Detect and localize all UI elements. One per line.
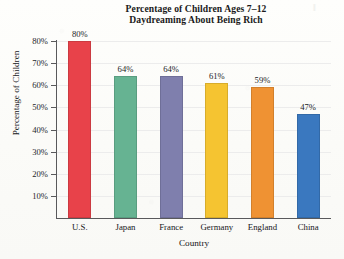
- gridline-10: [57, 196, 331, 197]
- bar-value-england: 59%: [240, 75, 286, 85]
- bar-germany: [205, 83, 228, 218]
- bar-china: [297, 114, 320, 218]
- y-tick-label-20: 20%: [8, 169, 48, 179]
- bar-chart-figure: ‖ Percentage of Children Ages 7–12 Daydr…: [0, 0, 344, 259]
- chart-title: Percentage of Children Ages 7–12 Daydrea…: [62, 3, 330, 26]
- gridline-60: [57, 85, 331, 86]
- y-tick-label-40: 40%: [8, 125, 48, 135]
- x-axis-line: [56, 218, 331, 219]
- gridline-80: [57, 41, 331, 42]
- y-tick-label-70: 70%: [8, 58, 48, 68]
- bar-england: [251, 87, 274, 218]
- gridline-30: [57, 152, 331, 153]
- bar-value-us: 80%: [57, 29, 103, 39]
- x-axis-label: Country: [57, 238, 331, 248]
- y-tick-label-30: 30%: [8, 147, 48, 157]
- y-tick-label-80: 80%: [8, 36, 48, 46]
- bar-france: [160, 76, 183, 218]
- bar-value-china: 47%: [285, 102, 331, 112]
- y-tick-label-50: 50%: [8, 102, 48, 112]
- gridline-40: [57, 130, 331, 131]
- chart-title-line-2: Daydreaming About Being Rich: [62, 14, 330, 25]
- bar-japan: [114, 76, 137, 218]
- bar-us: [68, 41, 91, 218]
- gridline-20: [57, 174, 331, 175]
- y-tick-label-60: 60%: [8, 80, 48, 90]
- bar-value-france: 64%: [148, 64, 194, 74]
- y-tick-label-10: 10%: [8, 191, 48, 201]
- chart-title-line-1: Percentage of Children Ages 7–12: [62, 3, 330, 14]
- category-label-china: China: [277, 222, 339, 232]
- bar-value-germany: 61%: [194, 71, 240, 81]
- bar-value-japan: 64%: [103, 64, 149, 74]
